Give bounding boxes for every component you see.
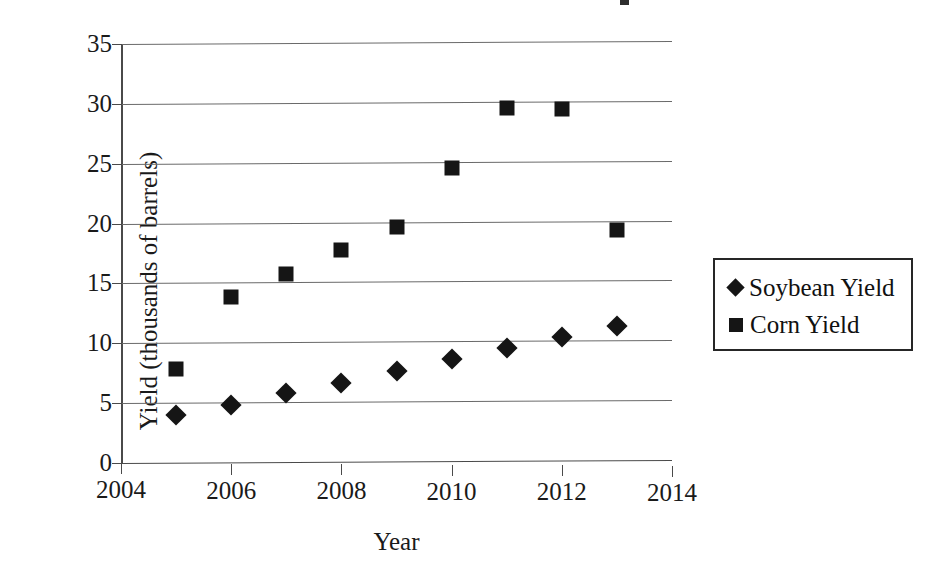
y-axis-tick-label: 0 — [100, 450, 113, 475]
data-point — [224, 290, 239, 305]
y-axis-tick — [112, 283, 122, 284]
y-axis-tick — [112, 343, 122, 344]
y-axis-tick-label: 15 — [87, 270, 112, 295]
x-axis-tick-label: 2008 — [316, 478, 366, 503]
diamond-marker-icon — [726, 278, 744, 296]
x-axis-title: Year — [121, 528, 672, 556]
data-point — [334, 242, 349, 257]
data-point — [386, 361, 407, 382]
y-axis-line — [121, 44, 123, 463]
square-marker-icon — [729, 318, 743, 332]
x-axis-tick — [121, 463, 122, 474]
gridline — [121, 340, 672, 344]
chart-figure: Yield (thousands of barrels) Year 051015… — [0, 0, 952, 581]
data-point — [276, 383, 297, 404]
data-point — [331, 372, 352, 393]
plot-area: 05101520253035200420062008201020122014 — [121, 44, 672, 463]
gridline — [121, 280, 672, 284]
scan-artifact — [620, 0, 629, 5]
x-axis-tick-label: 2012 — [537, 479, 587, 504]
y-axis-tick — [112, 403, 122, 404]
y-axis-tick — [112, 164, 122, 165]
x-axis-tick-label: 2004 — [96, 477, 146, 502]
data-point — [554, 101, 569, 116]
legend-entry[interactable]: Soybean Yield — [729, 269, 911, 306]
x-axis-tick — [452, 465, 453, 476]
data-point — [389, 220, 404, 235]
data-point — [169, 361, 184, 376]
legend-label: Corn Yield — [750, 312, 860, 337]
y-axis-tick-label: 20 — [87, 211, 112, 236]
data-point — [499, 101, 514, 116]
y-axis-tick — [112, 44, 122, 45]
y-axis-tick — [112, 104, 122, 105]
x-axis-line — [121, 460, 672, 464]
y-axis-tick — [112, 224, 122, 225]
gridline — [121, 101, 672, 105]
data-point — [444, 160, 459, 175]
data-point — [165, 405, 186, 426]
x-axis-tick-label: 2006 — [206, 478, 256, 503]
x-axis-tick — [341, 464, 342, 475]
gridline — [121, 161, 672, 165]
y-axis-tick-label: 35 — [87, 31, 112, 56]
data-point — [551, 327, 572, 348]
data-point — [609, 222, 624, 237]
x-axis-tick — [562, 465, 563, 476]
x-axis-tick — [672, 466, 673, 477]
legend-label: Soybean Yield — [749, 275, 895, 300]
legend-entry[interactable]: Corn Yield — [729, 306, 911, 343]
y-axis-tick-label: 10 — [87, 330, 112, 355]
data-point — [606, 315, 627, 336]
x-axis-tick-label: 2014 — [647, 480, 697, 505]
data-point — [441, 349, 462, 370]
gridline — [121, 400, 672, 404]
data-point — [279, 266, 294, 281]
x-axis-tick — [231, 464, 232, 475]
data-point — [221, 394, 242, 415]
y-axis-tick-label: 5 — [100, 390, 113, 415]
y-axis-tick-label: 30 — [87, 91, 112, 116]
gridline — [121, 41, 672, 45]
chart-legend: Soybean YieldCorn Yield — [713, 258, 913, 351]
y-axis-tick-label: 25 — [87, 151, 112, 176]
x-axis-tick-label: 2010 — [427, 479, 477, 504]
